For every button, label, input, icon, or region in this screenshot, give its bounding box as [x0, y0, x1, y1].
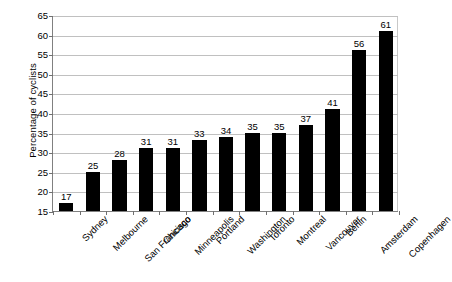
y-tick-label: 55 — [24, 50, 48, 60]
y-tick-label: 35 — [24, 129, 48, 139]
gridline — [53, 55, 398, 56]
bar-value-label: 41 — [318, 98, 346, 108]
bar — [299, 125, 313, 211]
bar — [192, 140, 206, 211]
bar — [379, 31, 393, 211]
gridline — [53, 94, 398, 95]
y-tick-label: 50 — [24, 70, 48, 80]
bar — [272, 133, 286, 211]
bar — [59, 203, 73, 211]
y-tick-label: 65 — [24, 11, 48, 21]
bar-value-label: 31 — [132, 137, 160, 147]
y-axis-tick-labels: 1520253035404550556065 — [24, 0, 48, 282]
bar-value-label: 34 — [212, 126, 240, 136]
y-tick-label: 25 — [24, 168, 48, 178]
gridline — [53, 75, 398, 76]
bar-value-label: 28 — [106, 149, 134, 159]
bar-value-label: 33 — [185, 129, 213, 139]
y-tick-label: 45 — [24, 89, 48, 99]
bar-value-label: 31 — [159, 137, 187, 147]
bar-value-label: 37 — [292, 114, 320, 124]
bar-value-label: 56 — [345, 39, 373, 49]
gridline — [53, 36, 398, 37]
bar — [139, 148, 153, 211]
x-tick-label: Chicago — [161, 214, 193, 246]
bar — [352, 50, 366, 211]
y-tick-mark — [49, 75, 53, 76]
y-tick-mark — [49, 55, 53, 56]
y-tick-mark — [49, 134, 53, 135]
bar-value-label: 25 — [79, 161, 107, 171]
y-tick-label: 40 — [24, 109, 48, 119]
y-tick-label: 20 — [24, 187, 48, 197]
y-tick-label: 60 — [24, 31, 48, 41]
x-tick-label: Melbourne — [111, 214, 150, 253]
bar-value-label: 61 — [372, 20, 400, 30]
x-axis-tick-labels: SydneyMelbourneSan FranciscoChicagoMinne… — [52, 214, 398, 282]
bar — [86, 172, 100, 211]
x-tick-label: Montreal — [295, 214, 328, 247]
y-tick-mark — [49, 114, 53, 115]
x-tick-label: Berlin — [345, 214, 369, 238]
bar-value-label: 35 — [239, 122, 267, 132]
y-tick-label: 15 — [24, 207, 48, 217]
y-tick-label: 30 — [24, 148, 48, 158]
y-tick-mark — [49, 94, 53, 95]
gridline — [53, 114, 398, 115]
y-tick-mark — [49, 173, 53, 174]
bar — [112, 160, 126, 211]
bar — [325, 109, 339, 211]
x-tick-mark — [399, 211, 400, 215]
bar — [166, 148, 180, 211]
bar — [245, 133, 259, 211]
bar-value-label: 17 — [52, 192, 80, 202]
bar-value-label: 35 — [265, 122, 293, 132]
gridline — [53, 16, 398, 17]
bar — [219, 137, 233, 211]
y-tick-mark — [49, 36, 53, 37]
y-tick-mark — [49, 153, 53, 154]
x-tick-label: Sydney — [81, 214, 110, 243]
plot-area: 17252831313334353537415661 — [52, 16, 398, 212]
y-tick-mark — [49, 16, 53, 17]
